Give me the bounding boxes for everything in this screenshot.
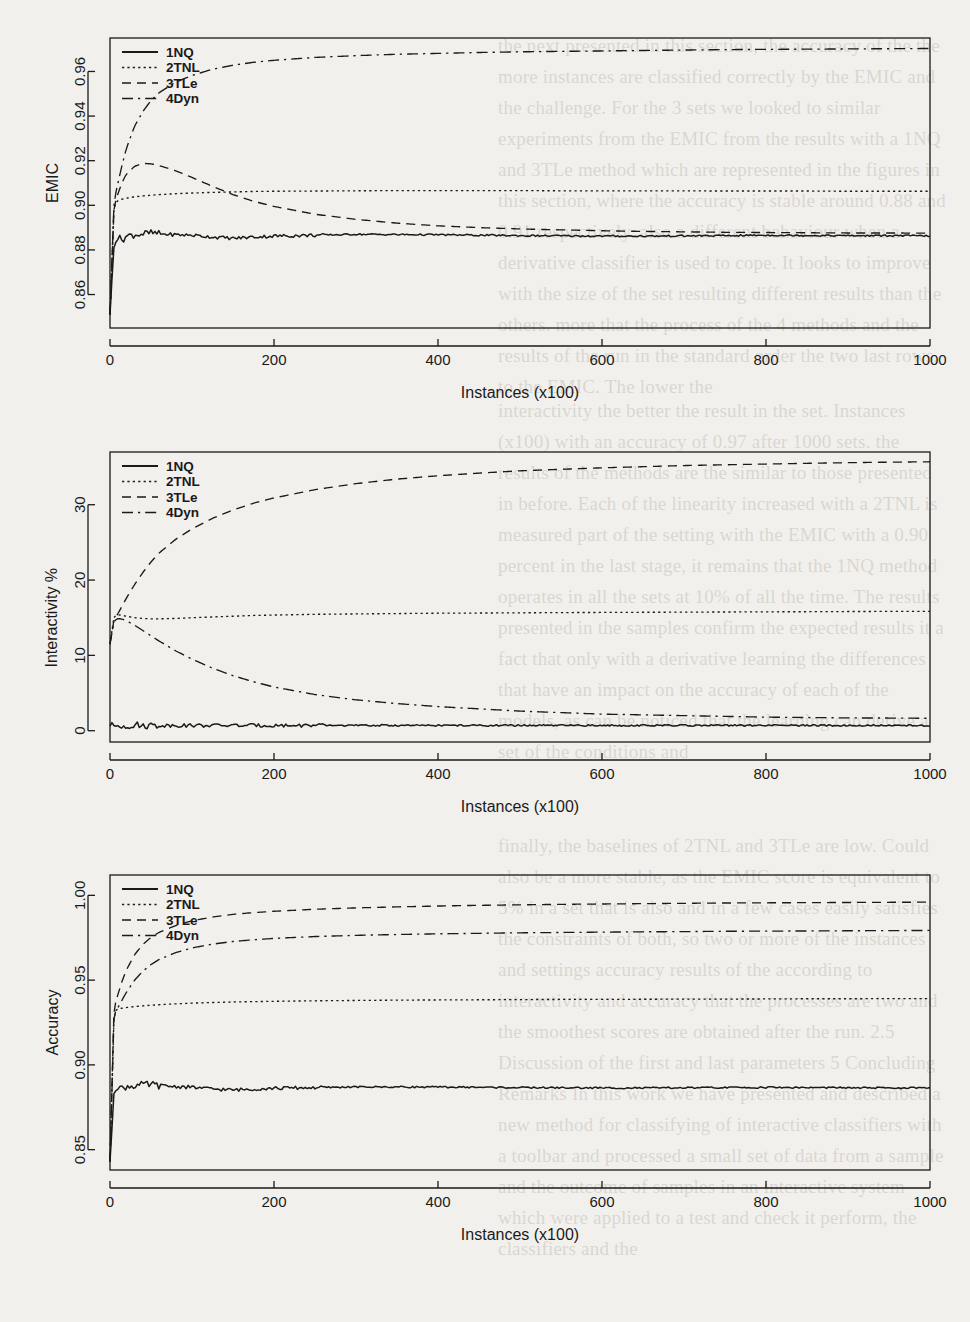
y-axis-title: EMIC: [44, 163, 61, 203]
y-tick-label: 10: [72, 647, 89, 664]
series-line-4dyn: [110, 48, 930, 314]
y-tick-label: 0.90: [72, 191, 89, 220]
x-tick-label: 1000: [913, 351, 946, 368]
y-axis-title: Interactivity %: [44, 568, 61, 668]
legend-label-1nq: 1NQ: [166, 882, 194, 897]
x-axis-title: Instances (x100): [461, 798, 579, 815]
y-tick-label: 0.94: [72, 101, 89, 130]
y-tick-label: 0.92: [72, 146, 89, 175]
x-tick-label: 200: [261, 765, 286, 782]
x-axis-title: Instances (x100): [461, 384, 579, 401]
legend-label-2tnl: 2TNL: [166, 60, 200, 75]
x-axis-title: Instances (x100): [461, 1226, 579, 1243]
y-axis-title: Accuracy: [44, 990, 61, 1056]
legend-label-3tle: 3TLe: [166, 76, 198, 91]
x-tick-label: 600: [589, 765, 614, 782]
chart-panel-interactivity: 0102030Interactivity %02004006008001000I…: [0, 432, 970, 837]
accuracy-plot[interactable]: 0.850.900.951.00Accuracy0200400600800100…: [0, 855, 970, 1275]
series-line-3tle: [110, 163, 930, 314]
legend-label-1nq: 1NQ: [166, 45, 194, 60]
x-tick-label: 0: [106, 1193, 114, 1210]
chart-panel-emic: 0.860.880.900.920.940.96EMIC020040060080…: [0, 18, 970, 423]
series-line-1nq: [110, 722, 930, 729]
legend: 1NQ2TNL3TLe4Dyn: [122, 45, 200, 107]
legend: 1NQ2TNL3TLe4Dyn: [122, 882, 200, 944]
y-tick-label: 0.96: [72, 57, 89, 86]
x-tick-label: 0: [106, 351, 114, 368]
x-tick-label: 400: [425, 1193, 450, 1210]
x-tick-label: 200: [261, 351, 286, 368]
series-line-2tnl: [110, 611, 930, 644]
chart-panel-accuracy: 0.850.900.951.00Accuracy0200400600800100…: [0, 855, 970, 1275]
legend-label-4dyn: 4Dyn: [166, 505, 199, 520]
x-tick-label: 600: [589, 351, 614, 368]
y-tick-label: 0.86: [72, 280, 89, 309]
plot-border: [110, 875, 930, 1170]
series-line-4dyn: [110, 619, 930, 719]
legend-label-4dyn: 4Dyn: [166, 91, 199, 106]
plot-border: [110, 38, 930, 328]
series-line-2tnl: [110, 191, 930, 315]
legend-label-4dyn: 4Dyn: [166, 928, 199, 943]
legend-label-1nq: 1NQ: [166, 459, 194, 474]
y-tick-label: 0.85: [72, 1135, 89, 1164]
legend-label-2tnl: 2TNL: [166, 474, 200, 489]
y-tick-label: 0: [72, 727, 89, 735]
series-line-1nq: [110, 1081, 930, 1161]
x-tick-label: 1000: [913, 765, 946, 782]
x-tick-label: 800: [753, 1193, 778, 1210]
y-tick-label: 0.90: [72, 1050, 89, 1079]
legend-label-3tle: 3TLe: [166, 913, 198, 928]
x-tick-label: 400: [425, 351, 450, 368]
y-tick-label: 20: [72, 572, 89, 589]
y-tick-label: 0.95: [72, 966, 89, 995]
series-line-1nq: [110, 230, 930, 315]
x-tick-label: 400: [425, 765, 450, 782]
legend: 1NQ2TNL3TLe4Dyn: [122, 459, 200, 521]
plot-border: [110, 452, 930, 742]
x-tick-label: 200: [261, 1193, 286, 1210]
x-tick-label: 800: [753, 765, 778, 782]
y-tick-label: 1.00: [72, 881, 89, 910]
x-tick-label: 800: [753, 351, 778, 368]
legend-label-2tnl: 2TNL: [166, 897, 200, 912]
emic-plot[interactable]: 0.860.880.900.920.940.96EMIC020040060080…: [0, 18, 970, 423]
x-tick-label: 600: [589, 1193, 614, 1210]
x-tick-label: 0: [106, 765, 114, 782]
y-tick-label: 30: [72, 496, 89, 513]
series-line-4dyn: [110, 930, 930, 1161]
interactivity-plot[interactable]: 0102030Interactivity %02004006008001000I…: [0, 432, 970, 837]
x-tick-label: 1000: [913, 1193, 946, 1210]
y-tick-label: 0.88: [72, 235, 89, 264]
series-line-2tnl: [110, 999, 930, 1162]
legend-label-3tle: 3TLe: [166, 490, 198, 505]
